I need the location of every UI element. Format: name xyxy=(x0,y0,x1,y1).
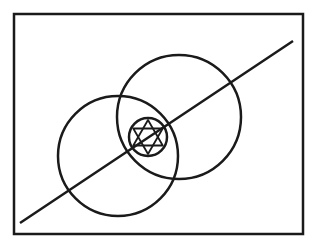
downward-triangle xyxy=(133,129,162,155)
diagonal-line xyxy=(20,41,293,223)
geometric-diagram xyxy=(0,0,316,250)
upward-triangle xyxy=(133,120,162,146)
